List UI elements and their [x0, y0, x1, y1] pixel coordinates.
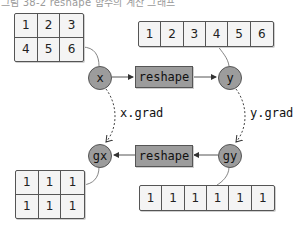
y-cell: 4: [206, 22, 228, 46]
y-cell: 3: [184, 22, 206, 46]
reshape-forward-function: reshape: [135, 66, 193, 88]
x-cell: 1: [15, 14, 38, 38]
x-variable-node: x: [88, 66, 112, 90]
figure-caption: 그림 38-2 reshape 함수의 계산 그래프: [1, 0, 175, 9]
y-cell: 6: [251, 22, 273, 46]
gx-cell: 1: [16, 171, 39, 195]
gy-cell: 1: [229, 186, 251, 210]
y-vector: 1 2 3 4 5 6: [138, 21, 274, 47]
x-cell: 3: [60, 14, 83, 38]
gx-cell: 1: [39, 195, 62, 219]
gy-variable-node: gy: [218, 144, 242, 168]
x-cell: 6: [60, 38, 83, 62]
y-cell: 1: [139, 22, 161, 46]
gy-cell: 1: [207, 186, 229, 210]
x-cell: 4: [15, 38, 38, 62]
y-variable-node: y: [218, 66, 242, 90]
gx-cell: 1: [61, 195, 84, 219]
x-cell: 5: [38, 38, 61, 62]
gx-cell: 1: [16, 195, 39, 219]
x-cell: 2: [38, 14, 61, 38]
gy-cell: 1: [162, 186, 184, 210]
gy-cell: 1: [252, 186, 274, 210]
gx-cell: 1: [61, 171, 84, 195]
reshape-backward-function: reshape: [135, 145, 193, 167]
y-grad-label: y.grad: [250, 106, 293, 120]
gy-cell: 1: [185, 186, 207, 210]
y-cell: 2: [161, 22, 183, 46]
x-matrix: 1 2 3 4 5 6: [14, 13, 84, 62]
y-cell: 5: [228, 22, 250, 46]
gx-variable-node: gx: [88, 144, 112, 168]
gx-cell: 1: [39, 171, 62, 195]
gx-matrix: 1 1 1 1 1 1: [15, 170, 85, 219]
gy-cell: 1: [140, 186, 162, 210]
x-grad-label: x.grad: [120, 106, 163, 120]
gy-vector: 1 1 1 1 1 1: [139, 185, 275, 211]
